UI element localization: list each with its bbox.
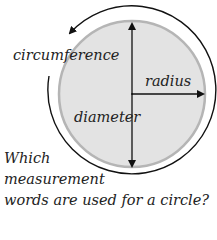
question-line-3: words are used for a circle?: [4, 192, 209, 208]
diameter-label: diameter: [74, 109, 140, 125]
radius-label: radius: [145, 73, 191, 89]
circumference-label: circumference: [13, 47, 119, 63]
question-line-2: measurement: [4, 171, 105, 187]
question-line-1: Which: [4, 150, 50, 166]
